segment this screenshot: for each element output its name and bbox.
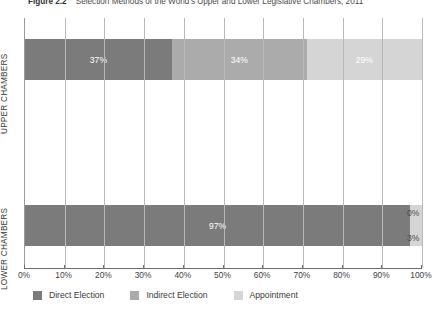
legend-item-direct-election[interactable]: Direct Election <box>33 290 104 300</box>
y-axis-label-upper-chambers: UPPER CHAMBERS <box>0 14 9 134</box>
x-axis-tickmark <box>421 265 422 269</box>
bar-segment-value: 29% <box>356 55 373 65</box>
x-axis-tickmark <box>223 265 224 269</box>
figure-number: Figure 2.2 <box>28 0 67 6</box>
x-axis-tickmark <box>183 265 184 269</box>
bar-segment-indirect-election: 34% <box>172 39 307 80</box>
gridline <box>343 18 344 268</box>
gridline <box>104 18 105 268</box>
bar-value-label-appointment-lower: 3% <box>407 233 419 243</box>
legend-item-appointment[interactable]: Appointment <box>234 290 298 300</box>
bar-segment-direct-election: 37% <box>25 39 172 80</box>
x-axis-tick-label: 10% <box>55 270 72 280</box>
x-axis-tickmark <box>342 265 343 269</box>
x-axis-tickmark <box>381 265 382 269</box>
bar-segment-value: 34% <box>231 55 248 65</box>
legend-item-indirect-election[interactable]: Indirect Election <box>130 290 207 300</box>
legend-label: Appointment <box>250 290 298 300</box>
x-axis-tick-label: 90% <box>373 270 390 280</box>
chart-legend: Direct Election Indirect Election Appoin… <box>0 285 437 305</box>
x-axis-tickmark <box>143 265 144 269</box>
gridline <box>263 18 264 268</box>
gridline <box>303 18 304 268</box>
x-axis-tick-label: 0% <box>18 270 30 280</box>
legend-swatch-icon <box>33 291 42 300</box>
legend-swatch-icon <box>130 291 139 300</box>
x-axis-tickmark <box>262 265 263 269</box>
gridline <box>224 18 225 268</box>
x-axis-tick-label: 30% <box>135 270 152 280</box>
gridline <box>422 18 423 268</box>
figure-title-text: Selection Methods of the World's Upper a… <box>76 0 364 6</box>
x-axis-tick-label: 40% <box>174 270 191 280</box>
x-axis-tick-label: 20% <box>95 270 112 280</box>
x-axis-tick-label: 50% <box>214 270 231 280</box>
chart-area: UPPER CHAMBERS LOWER CHAMBERS 37% 34% 29… <box>0 14 437 313</box>
plot-area: 37% 34% 29% 97% 0% 3% <box>24 18 421 269</box>
x-axis-tick-label: 70% <box>294 270 311 280</box>
legend-label: Indirect Election <box>146 290 207 300</box>
figure-title: Figure 2.2Selection Methods of the World… <box>28 0 437 10</box>
x-axis-tick-label: 60% <box>254 270 271 280</box>
y-axis-label-lower-chambers: LOWER CHAMBERS <box>0 170 9 290</box>
x-axis-tickmark <box>302 265 303 269</box>
x-axis-tick-label: 80% <box>333 270 350 280</box>
gridline <box>184 18 185 268</box>
x-axis-tickmark <box>24 265 25 269</box>
legend-label: Direct Election <box>49 290 104 300</box>
gridline <box>382 18 383 268</box>
gridline <box>144 18 145 268</box>
x-axis-tick-label: 100% <box>410 270 431 280</box>
bar-segment-direct-election: 97% <box>25 205 410 246</box>
gridline <box>65 18 66 268</box>
x-axis-tickmark <box>103 265 104 269</box>
legend-swatch-icon <box>234 291 243 300</box>
x-axis-tickmark <box>64 265 65 269</box>
bar-segment-appointment: 29% <box>307 39 422 80</box>
bar-value-label-indirect-election-lower: 0% <box>407 208 419 218</box>
